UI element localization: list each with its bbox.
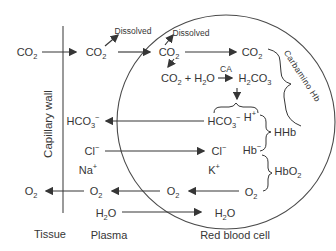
brace-hbo2: [262, 155, 272, 191]
label-hco3-rbc: HCO3−: [208, 116, 241, 127]
label-hbo2: HbO2: [275, 166, 302, 177]
zone-label-plasma: Plasma: [91, 230, 128, 241]
label-hco3-plasma: HCO3−: [67, 116, 100, 127]
label-o2-bound: O2: [245, 187, 258, 198]
arrow-co2-to-hydration: [168, 59, 174, 67]
label-o2-tissue: O2: [25, 186, 38, 197]
zone-label-tissue: Tissue: [34, 229, 66, 240]
label-cl-rbc: Cl−: [212, 146, 227, 157]
arrow-co2-plasma-dissolved: [105, 35, 118, 46]
label-dissolved-plasma: Dissolved: [115, 27, 152, 36]
label-o2-rbc: O2: [167, 186, 180, 197]
label-co2-tissue: CO2: [17, 47, 38, 58]
label-o2-plasma: O2: [90, 186, 103, 197]
zone-label-red-blood-cell: Red blood cell: [200, 230, 270, 241]
label-dissolved-rbc: Dissolved: [173, 29, 210, 38]
label-h2o-rbc: H2O: [215, 208, 236, 219]
label-hb-ion: Hb−: [243, 145, 261, 156]
co2-transport-diagram: CO2 CO2 Dissolved CO2 Dissolved CO2 CO2 …: [0, 0, 336, 251]
label-co2-plasma: CO2: [86, 47, 107, 58]
brace-hhb: [260, 115, 271, 151]
label-hhb: HHb: [274, 127, 296, 138]
label-k-ion: K+: [208, 165, 220, 176]
label-h-ion: H+: [244, 112, 256, 123]
label-capillary-wall: Capillary wall: [43, 90, 55, 158]
label-co2-carbamino: CO2: [242, 47, 263, 58]
label-na-ion: Na+: [79, 165, 97, 176]
label-carbonic-acid: H2CO3: [239, 73, 272, 84]
label-hydration-reactants: CO2 + H2O: [161, 73, 215, 84]
label-co2-rbc: CO2: [159, 47, 180, 58]
label-cl-plasma: Cl−: [85, 146, 100, 157]
label-h2o-plasma: H2O: [96, 208, 117, 219]
label-carbonic-anhydrase: CA: [220, 65, 232, 74]
